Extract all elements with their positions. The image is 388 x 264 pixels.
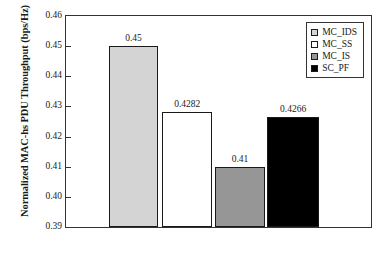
bar-mc-ss (162, 112, 212, 227)
y-axis-tick-labels: 0.460.450.440.430.420.410.400.39 (28, 15, 62, 228)
plot-area: 0.450.42820.410.4266 MC_IDSMC_SSMC_ISSC_… (65, 15, 372, 228)
bar-chart-figure: Normalized MAC-hs PDU Throughput (bps/Hz… (0, 0, 388, 264)
legend-label: MC_SS (322, 38, 352, 50)
legend-label: SC_PF (322, 62, 349, 74)
y-axis-tick-label: 0.41 (28, 161, 62, 171)
legend-swatch-icon (311, 65, 318, 72)
bar-mc-is (215, 167, 265, 227)
y-axis-tick-label: 0.43 (28, 100, 62, 110)
bar-value-label: 0.41 (215, 154, 265, 165)
bar-sc-pf (267, 117, 320, 227)
y-axis-tick-mark (66, 106, 71, 107)
y-axis-tick-mark (66, 197, 71, 198)
bar-value-label: 0.45 (109, 33, 159, 44)
chart-legend: MC_IDSMC_SSMC_ISSC_PF (306, 22, 364, 78)
y-axis-tick-mark (66, 46, 71, 47)
y-axis-tick-label: 0.44 (28, 70, 62, 80)
legend-label: MC_IDS (322, 26, 357, 38)
legend-item-mc-ids: MC_IDS (311, 26, 357, 38)
legend-item-mc-ss: MC_SS (311, 38, 357, 50)
legend-label: MC_IS (322, 50, 350, 62)
y-axis-tick-mark (66, 137, 71, 138)
legend-swatch-icon (311, 41, 318, 48)
y-axis-tick-label: 0.39 (28, 221, 62, 231)
bar-mc-ids (109, 46, 159, 227)
y-axis-tick-label: 0.42 (28, 131, 62, 141)
y-axis-tick-label: 0.40 (28, 191, 62, 201)
y-axis-tick-label: 0.45 (28, 40, 62, 50)
legend-item-mc-is: MC_IS (311, 50, 357, 62)
bar-value-label: 0.4266 (267, 104, 320, 115)
bar-value-label: 0.4282 (162, 99, 212, 110)
y-axis-tick-label: 0.46 (28, 10, 62, 20)
y-axis-tick-mark (66, 167, 71, 168)
y-axis-tick-mark (66, 76, 71, 77)
legend-item-sc-pf: SC_PF (311, 62, 357, 74)
legend-swatch-icon (311, 29, 318, 36)
legend-swatch-icon (311, 53, 318, 60)
